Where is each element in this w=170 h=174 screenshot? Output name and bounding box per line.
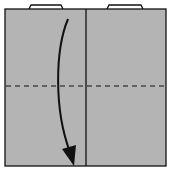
origami-diagram (0, 0, 170, 174)
